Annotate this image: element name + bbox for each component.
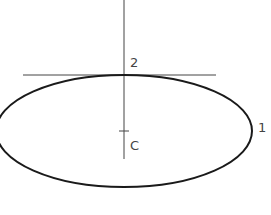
- diagram-canvas: 2 C 1: [0, 0, 271, 215]
- label-point-2: 2: [130, 56, 138, 69]
- label-center: C: [130, 139, 139, 152]
- label-point-1: 1: [258, 121, 266, 134]
- ellipse-diagram: [0, 0, 271, 215]
